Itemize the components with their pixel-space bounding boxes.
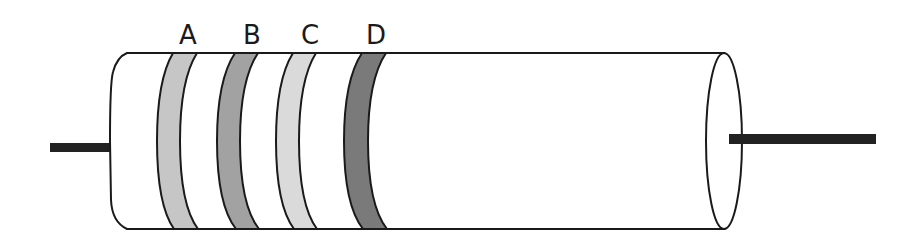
band-label-a: A bbox=[179, 20, 197, 50]
left-lead bbox=[50, 143, 112, 152]
band-label-b: B bbox=[243, 20, 261, 50]
resistor-diagram: A B C D bbox=[0, 0, 920, 248]
right-lead-overlay bbox=[729, 134, 876, 144]
resistor-body bbox=[110, 53, 724, 229]
band-label-c: C bbox=[301, 20, 319, 50]
band-label-d: D bbox=[366, 20, 386, 50]
